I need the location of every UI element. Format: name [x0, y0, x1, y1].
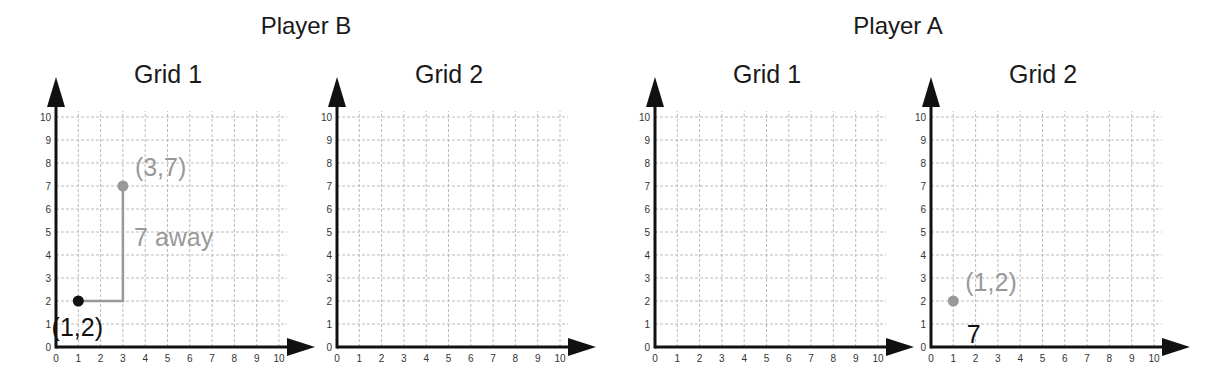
x-tick-label: 8: [831, 353, 837, 364]
grid-0-1: 012345678910012345678910: [321, 77, 596, 364]
point-label: (1,2): [52, 313, 103, 341]
x-tick-label: 5: [1040, 353, 1046, 364]
x-tick-label: 10: [872, 353, 884, 364]
y-tick-label: 3: [644, 273, 650, 284]
y-axis-arrow-icon: [646, 77, 664, 107]
x-tick-label: 3: [401, 353, 407, 364]
x-tick-label: 4: [741, 353, 747, 364]
x-tick-label: 7: [808, 353, 814, 364]
y-tick-label: 4: [920, 250, 926, 261]
x-axis-arrow-icon: [287, 338, 315, 356]
x-tick-label: 6: [1062, 353, 1068, 364]
x-axis-arrow-icon: [1162, 338, 1190, 356]
y-tick-label: 4: [644, 250, 650, 261]
x-tick-label: 5: [446, 353, 452, 364]
y-tick-label: 8: [644, 158, 650, 169]
y-tick-label: 9: [920, 135, 926, 146]
x-tick-label: 10: [1148, 353, 1160, 364]
grid-0-0: 012345678910012345678910(1,2)(3,7)7 away: [40, 77, 315, 364]
y-tick-label: 5: [920, 227, 926, 238]
y-tick-label: 8: [45, 158, 51, 169]
x-axis-arrow-icon: [568, 338, 596, 356]
x-tick-label: 3: [995, 353, 1001, 364]
plotted-point: [117, 181, 128, 192]
x-tick-label: 1: [76, 353, 82, 364]
y-tick-label: 1: [45, 319, 51, 330]
x-tick-label: 7: [1084, 353, 1090, 364]
y-tick-label: 5: [326, 227, 332, 238]
y-axis-arrow-icon: [47, 77, 65, 107]
distance-annotation: 7: [967, 320, 981, 348]
x-tick-label: 8: [1107, 353, 1113, 364]
grid-1-0: 012345678910012345678910: [639, 77, 914, 364]
x-tick-label: 10: [554, 353, 566, 364]
y-tick-label: 7: [326, 181, 332, 192]
y-tick-label: 9: [326, 135, 332, 146]
y-tick-label: 10: [321, 112, 333, 123]
x-tick-label: 3: [120, 353, 126, 364]
y-tick-label: 7: [920, 181, 926, 192]
x-tick-label: 9: [254, 353, 260, 364]
y-tick-label: 2: [45, 296, 51, 307]
y-tick-label: 5: [45, 227, 51, 238]
grid-1-1: 012345678910012345678910(1,2)7: [915, 77, 1190, 364]
y-tick-label: 6: [644, 204, 650, 215]
y-tick-label: 1: [644, 319, 650, 330]
x-tick-label: 8: [513, 353, 519, 364]
x-tick-label: 5: [764, 353, 770, 364]
x-tick-label: 0: [652, 353, 658, 364]
y-tick-label: 8: [326, 158, 332, 169]
x-tick-label: 3: [719, 353, 725, 364]
y-tick-label: 5: [644, 227, 650, 238]
y-tick-label: 3: [920, 273, 926, 284]
y-tick-label: 9: [644, 135, 650, 146]
y-tick-label: 6: [326, 204, 332, 215]
y-tick-label: 0: [644, 342, 650, 353]
x-tick-label: 2: [379, 353, 385, 364]
y-tick-label: 7: [45, 181, 51, 192]
y-tick-label: 10: [40, 112, 52, 123]
y-tick-label: 1: [326, 319, 332, 330]
point-label: (3,7): [135, 153, 186, 181]
plotted-point: [73, 296, 84, 307]
point-label: (1,2): [965, 268, 1016, 296]
x-tick-label: 10: [273, 353, 285, 364]
x-tick-label: 1: [675, 353, 681, 364]
y-axis-arrow-icon: [922, 77, 940, 107]
y-tick-label: 4: [326, 250, 332, 261]
x-tick-label: 8: [232, 353, 238, 364]
y-tick-label: 9: [45, 135, 51, 146]
distance-path: [78, 186, 123, 301]
x-tick-label: 2: [98, 353, 104, 364]
x-tick-label: 9: [535, 353, 541, 364]
y-tick-label: 4: [45, 250, 51, 261]
y-tick-label: 10: [915, 112, 927, 123]
x-tick-label: 6: [786, 353, 792, 364]
y-tick-label: 2: [644, 296, 650, 307]
y-axis-arrow-icon: [328, 77, 346, 107]
y-tick-label: 2: [326, 296, 332, 307]
x-axis-arrow-icon: [886, 338, 914, 356]
y-tick-label: 0: [326, 342, 332, 353]
x-tick-label: 7: [490, 353, 496, 364]
y-tick-label: 8: [920, 158, 926, 169]
plotted-point: [948, 296, 959, 307]
y-tick-label: 3: [45, 273, 51, 284]
x-tick-label: 1: [357, 353, 363, 364]
x-tick-label: 2: [697, 353, 703, 364]
x-tick-label: 0: [53, 353, 59, 364]
x-tick-label: 4: [1017, 353, 1023, 364]
x-tick-label: 0: [928, 353, 934, 364]
x-tick-label: 4: [423, 353, 429, 364]
y-tick-label: 7: [644, 181, 650, 192]
x-tick-label: 9: [1129, 353, 1135, 364]
grids-canvas: 012345678910012345678910(1,2)(3,7)7 away…: [0, 0, 1225, 392]
x-tick-label: 6: [468, 353, 474, 364]
x-tick-label: 1: [951, 353, 957, 364]
x-tick-label: 9: [853, 353, 859, 364]
x-tick-label: 6: [187, 353, 193, 364]
distance-annotation: 7 away: [134, 223, 214, 251]
x-tick-label: 5: [165, 353, 171, 364]
y-tick-label: 6: [45, 204, 51, 215]
x-tick-label: 2: [973, 353, 979, 364]
